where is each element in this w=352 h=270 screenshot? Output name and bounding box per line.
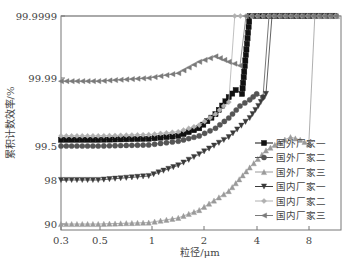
data-point [206,201,211,206]
data-point [80,143,85,148]
series-jump-line [309,16,315,144]
data-point [211,143,216,148]
legend-item: 国内厂家二 [255,196,326,207]
data-point [206,146,211,151]
series-6 [58,13,338,83]
data-point [166,166,171,171]
data-point [213,126,218,131]
data-point [202,131,207,136]
series-jump-line [266,16,272,94]
data-point [64,79,69,84]
data-point [85,143,90,148]
data-point [146,142,151,147]
data-point [239,91,244,96]
y-tick-label: 99.9999 [16,11,57,22]
data-point [171,165,176,170]
legend-item: 国外厂家三 [255,167,326,178]
data-point [158,141,163,146]
data-point [217,122,222,127]
data-point [238,13,243,18]
data-point [216,195,221,200]
data-point [118,143,123,148]
x-axis-ticks: 0.30.51248 [53,226,312,246]
data-point [80,79,85,84]
data-point [135,76,140,81]
data-point [186,136,191,141]
data-point [152,142,157,147]
data-point [85,79,90,84]
data-point [101,78,106,83]
legend-item: 国外厂家二 [255,152,326,163]
legend-marker-icon [261,198,266,203]
legend-item: 国内厂家一 [255,181,326,192]
data-point [156,170,161,175]
data-point [176,139,181,144]
data-point [197,152,202,157]
data-point [112,143,117,148]
data-point [181,137,186,142]
x-tick-label: 1 [149,235,155,246]
data-point [90,143,95,148]
data-point [186,211,191,216]
data-point [232,61,237,66]
data-point [226,115,231,120]
x-tick-label: 2 [201,235,207,246]
data-point [118,77,123,82]
efficiency-chart: 99.999999.9999.59890 0.30.51248 粒径/μm 累积… [0,0,352,270]
data-point [129,76,134,81]
data-point [232,13,237,18]
y-tick-label: 98 [44,175,57,186]
data-point [241,80,246,85]
data-point [176,71,181,76]
data-point [58,143,63,148]
series-1 [58,13,336,142]
data-point [245,30,250,35]
data-point [222,119,227,124]
series-5 [58,13,338,138]
data-point [245,36,250,41]
data-point [146,75,151,80]
data-point [202,149,207,154]
data-point [186,157,191,162]
y-axis-ticks: 99.999999.9999.59890 [16,11,65,230]
data-point [242,69,247,74]
x-axis-title: 粒径/μm [180,246,220,258]
y-axis-title: 累积计数效率/% [4,87,16,160]
data-point [242,100,247,105]
legend-item: 国内厂家三 [255,210,326,221]
legend-label: 国内厂家二 [276,196,326,207]
data-point [197,59,202,64]
data-point [141,76,146,81]
legend-label: 国外厂家一 [276,138,326,149]
legend-label: 国外厂家二 [276,152,326,163]
data-point [101,143,106,148]
legend-label: 国内厂家一 [276,181,326,192]
data-point [244,41,249,46]
data-point [164,73,169,78]
data-point [161,168,166,173]
data-point [164,140,169,145]
data-point [191,209,196,214]
legend-marker-icon [261,213,266,218]
legend-item: 国外厂家一 [255,138,326,149]
data-point [207,128,212,133]
data-point [191,154,196,159]
data-point [69,143,74,148]
data-point [181,213,186,218]
data-point [191,135,196,140]
x-tick-label: 4 [254,235,260,246]
data-point [244,47,249,52]
data-point [135,143,140,148]
legend-marker-icon [261,140,266,145]
y-tick-label: 99.99 [28,73,57,84]
data-point [69,79,74,84]
data-point [124,143,129,148]
data-point [151,172,156,177]
data-point [221,137,226,142]
data-point [216,140,221,145]
data-point [64,143,69,148]
data-point [233,87,238,92]
data-point [158,73,163,78]
data-point [74,143,79,148]
data-point [141,142,146,147]
